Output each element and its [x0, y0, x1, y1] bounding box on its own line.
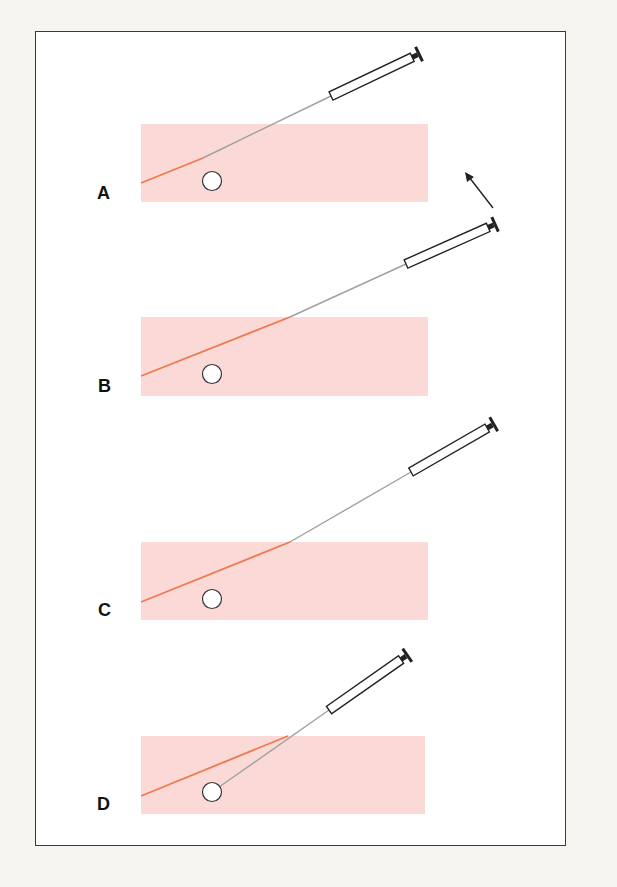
- target-circle: [203, 365, 222, 384]
- needle: [290, 264, 406, 317]
- tissue-block: [141, 736, 425, 814]
- panel-d: [141, 648, 425, 814]
- panel-a: [141, 46, 428, 202]
- panel-b: [141, 216, 500, 396]
- panel-label-b: B: [98, 377, 111, 395]
- needle-redirection-diagram: [0, 0, 617, 887]
- syringe-icon: [328, 46, 424, 103]
- target-circle: [203, 783, 222, 802]
- tissue-block: [141, 124, 428, 202]
- syringe-icon: [324, 648, 413, 717]
- syringe-icon: [403, 216, 500, 271]
- target-circle: [203, 590, 222, 609]
- tissue-block: [141, 317, 428, 396]
- tissue-block: [141, 542, 428, 620]
- panel-c: [141, 417, 499, 620]
- syringe-icon: [407, 417, 499, 479]
- panel-label-d: D: [97, 795, 110, 813]
- needle: [290, 472, 411, 542]
- panel-label-a: A: [97, 184, 110, 202]
- target-circle: [203, 172, 222, 191]
- panel-label-c: C: [98, 601, 111, 619]
- redirect-arrow-icon: [465, 172, 493, 208]
